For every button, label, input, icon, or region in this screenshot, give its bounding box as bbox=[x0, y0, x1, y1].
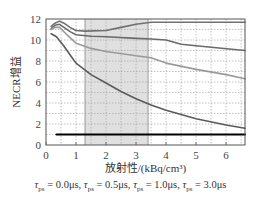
x-tick-label: 4 bbox=[163, 149, 169, 161]
x-tick-label: 5 bbox=[193, 149, 199, 161]
legend-item-3: τps = 3.0μs bbox=[182, 179, 226, 190]
x-tick-label: 0 bbox=[43, 149, 49, 161]
y-tick-label: 2 bbox=[36, 118, 42, 130]
x-tick-label: 1 bbox=[73, 149, 79, 161]
y-tick-label: 8 bbox=[36, 55, 42, 67]
legend-item-0: τps = 0.0μs, bbox=[35, 179, 84, 190]
y-axis-ticks: 024681012 bbox=[30, 13, 42, 151]
legend-item-1: τps = 0.5μs, bbox=[84, 179, 133, 190]
y-tick-label: 6 bbox=[36, 76, 42, 88]
x-axis-label: 放射性/(kBq/cm³) bbox=[105, 161, 187, 175]
x-tick-label: 2 bbox=[103, 149, 109, 161]
legend: τps = 0.0μs, τps = 0.5μs, τps = 1.0μs, τ… bbox=[0, 179, 261, 193]
x-tick-label: 6 bbox=[223, 149, 229, 161]
necr-gain-chart: 0123456 024681012 放射性/(kBq/cm³) NECR增益 bbox=[0, 0, 261, 198]
legend-item-2: τps = 1.0μs, bbox=[133, 179, 182, 190]
y-tick-label: 10 bbox=[30, 34, 42, 46]
x-tick-label: 3 bbox=[133, 149, 139, 161]
y-tick-label: 4 bbox=[36, 97, 42, 109]
y-axis-label: NECR增益 bbox=[9, 56, 22, 107]
y-tick-label: 12 bbox=[30, 13, 41, 25]
y-tick-label: 0 bbox=[36, 139, 42, 151]
